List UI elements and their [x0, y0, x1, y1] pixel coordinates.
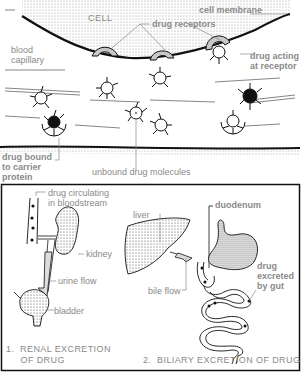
label-unbound-drug-molecules: unbound drug molecules	[92, 167, 191, 177]
liver-shape	[125, 218, 190, 274]
label-liver: liver	[133, 210, 150, 220]
kidney-shape	[56, 207, 79, 254]
label-blood-capillary: blood capillary	[11, 45, 44, 65]
biliary-excretion-title: 2. BILIARY EXCRETION OF DRUG	[143, 355, 300, 366]
label-drug-bound-to-carrier: drug bound to carrier protein	[2, 152, 52, 182]
label-drug-circulating: drug circulating in bloodstream	[48, 188, 109, 208]
label-drug-acting-at-receptor: drug acting at receptor	[250, 51, 299, 71]
label-drug-receptors: drug receptors	[152, 19, 216, 29]
drug-at-receptor	[210, 46, 228, 64]
label-cell: CELL	[88, 13, 113, 23]
drug-dots-bloodstream	[30, 204, 34, 241]
label-kidney: kidney	[86, 249, 112, 259]
bound-drug-molecules	[42, 83, 262, 136]
stomach-shape	[209, 220, 258, 270]
label-cell-membrane: cell membrane	[199, 5, 262, 15]
label-bladder: bladder	[54, 306, 84, 316]
intestines	[197, 262, 250, 364]
renal-excretion-title: 1. RENAL EXCRETION OF DRUG	[6, 344, 111, 366]
label-urine-flow: urine flow	[58, 276, 97, 286]
label-bile-flow: bile flow	[148, 286, 181, 296]
bile-flow-arrow	[170, 252, 192, 290]
label-duodenum: duodenum	[215, 200, 261, 210]
label-drug-excreted-by-gut: drug excreted by gut	[257, 261, 294, 291]
bladder-shape	[20, 290, 49, 326]
bottom-pointer-lines	[55, 120, 136, 170]
urine-flow-arrow	[38, 240, 56, 296]
